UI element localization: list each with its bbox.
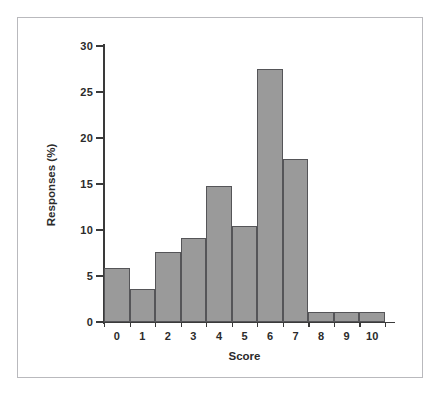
y-axis-tick [96,275,103,277]
x-axis-tick-label: 10 [357,330,387,342]
x-axis-tick [308,322,309,327]
x-axis-tick [155,322,156,327]
bar-7 [283,159,309,322]
bar-6 [257,69,283,322]
x-axis-tick [257,322,258,327]
figure-root: 051015202530 012345678910 Score Response… [0,0,437,398]
bar-1 [130,289,156,322]
x-axis-tick [104,322,105,327]
x-axis-tick [385,322,386,327]
y-axis-tick [96,45,103,47]
y-axis-tick-label: 20 [53,132,93,144]
x-axis-tick [283,322,284,327]
y-axis-tick-label: 15 [53,178,93,190]
x-axis-tick [359,322,360,327]
y-axis-tick [96,229,103,231]
bar-2 [155,252,181,322]
bar-9 [334,312,360,322]
y-axis-title-text: Responses (%) [45,120,57,250]
y-axis-tick [96,321,103,323]
x-axis-tick [181,322,182,327]
bar-series [104,46,385,322]
bar-3 [181,238,207,322]
x-axis-tick [130,322,131,327]
x-axis-tick [232,322,233,327]
x-axis-tick [334,322,335,327]
y-axis-tick-label: 10 [53,224,93,236]
y-axis-tick [96,137,103,139]
y-axis-tick-label: 0 [53,316,93,328]
y-axis-tick [96,183,103,185]
y-axis-tick-label: 5 [53,270,93,282]
y-axis-title: Responses (%) [45,0,61,120]
bar-4 [206,186,232,322]
y-axis-tick [96,91,103,93]
bar-10 [359,312,385,322]
x-axis-tick [206,322,207,327]
bar-0 [104,268,130,322]
bar-5 [232,226,258,322]
x-axis-title: Score [104,350,385,362]
bar-8 [308,312,334,322]
